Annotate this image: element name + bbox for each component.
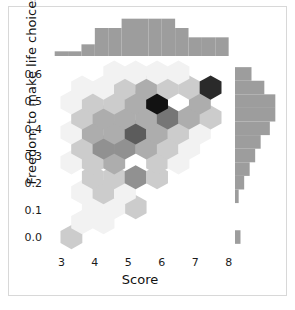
right-histogram-bar: [235, 81, 264, 95]
x-axis-label: Score: [48, 272, 232, 287]
right-marginal-svg: [235, 59, 279, 252]
y-tick-label: 0.2: [16, 177, 42, 190]
top-histogram-bar: [55, 51, 68, 56]
right-histogram-bar: [235, 67, 252, 81]
top-histogram-bar: [215, 37, 228, 56]
x-tick-label: 7: [185, 256, 205, 269]
y-tick-label: 0.0: [16, 231, 42, 244]
hexbin-svg: [48, 59, 232, 252]
top-histogram-bar: [202, 37, 215, 56]
top-histogram-bar: [148, 19, 161, 56]
top-histogram-bar: [175, 28, 188, 56]
x-tick-label: 5: [118, 256, 138, 269]
x-tick-label: 6: [152, 256, 172, 269]
y-tick-label: 0.3: [16, 150, 42, 163]
right-histogram-bar: [235, 108, 275, 122]
top-histogram-bar: [68, 51, 81, 56]
top-histogram-bar: [189, 37, 202, 56]
y-tick-label: 0.1: [16, 204, 42, 217]
top-marginal-histogram: [48, 14, 232, 56]
right-marginal-histogram: [235, 59, 279, 252]
top-histogram-bar: [81, 44, 94, 56]
y-tick-label: 0.4: [16, 123, 42, 136]
right-histogram-bar: [235, 135, 261, 149]
x-tick-label: 3: [51, 256, 71, 269]
right-histogram-bar: [235, 94, 275, 108]
x-tick-label: 4: [85, 256, 105, 269]
right-histogram-bar: [235, 176, 244, 190]
hexbin-joint-panel: [48, 59, 232, 252]
right-histogram-bar: [235, 230, 241, 244]
top-histogram-bar: [135, 19, 148, 56]
top-histogram-bar: [162, 19, 175, 56]
right-histogram-bar: [235, 149, 255, 163]
hexbin-jointplot-figure: Score Freedom to make life choices 0.00.…: [0, 0, 295, 310]
top-histogram-bar: [108, 28, 121, 56]
y-tick-label: 0.6: [16, 68, 42, 81]
top-histogram-bar: [122, 19, 135, 56]
top-marginal-svg: [48, 14, 232, 56]
x-tick-label: 8: [219, 256, 239, 269]
y-tick-label: 0.5: [16, 95, 42, 108]
top-histogram-bar: [95, 28, 108, 56]
right-histogram-bar: [235, 162, 250, 176]
right-histogram-bar: [235, 189, 239, 203]
right-histogram-bar: [235, 122, 270, 136]
